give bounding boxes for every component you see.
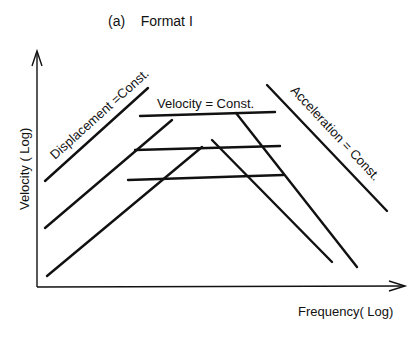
x-axis xyxy=(37,286,405,287)
velocity-label: Velocity = Const. xyxy=(157,96,254,111)
velocity-line-3 xyxy=(128,175,283,180)
format-diagram: (a) Format I Velocity ( Log) Frequency( … xyxy=(0,0,419,341)
velocity-line-1 xyxy=(140,112,275,116)
displacement-boundary-line xyxy=(45,88,148,181)
figure-title: (a) Format I xyxy=(108,13,193,29)
acceleration-label: Acceleration = Const. xyxy=(288,83,383,184)
x-axis-label: Frequency( Log) xyxy=(298,304,393,319)
displacement-label: Displacement =Const. xyxy=(47,66,152,162)
velocity-line-2 xyxy=(135,146,280,150)
acceleration-boundary-line xyxy=(267,85,387,211)
y-axis-label: Velocity ( Log) xyxy=(17,128,32,210)
displacement-line-3 xyxy=(47,147,202,276)
